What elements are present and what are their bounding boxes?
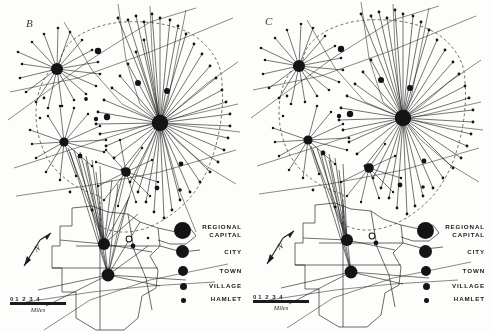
panel-b: B [0, 0, 245, 333]
legend-label-hamlet: HAMLET [437, 295, 485, 303]
scale-caption: Miles [10, 306, 66, 313]
legend-label-town: TOWN [437, 267, 485, 275]
legend-dot-city [419, 245, 432, 258]
legend-label-village: VILLAGE [194, 282, 242, 290]
panel-c-compass: N [261, 226, 301, 268]
panel-c: C [245, 0, 490, 333]
legend-label-regional-capital: REGIONAL CAPITAL [194, 223, 242, 238]
svg-text:N: N [32, 243, 42, 254]
panel-c-scalebar: 0 1 2 3 4 Miles [253, 294, 309, 311]
legend-dot-hamlet [424, 298, 429, 303]
legend-dot-village [423, 283, 430, 290]
scale-tick: 4 [31, 296, 45, 302]
figure-container: B [0, 0, 490, 333]
panel-b-compass: N [18, 228, 58, 270]
scale-caption: Miles [253, 304, 309, 311]
panel-b-scalebar: 0 1 2 3 4 Miles [10, 296, 66, 313]
legend-dot-hamlet [181, 298, 186, 303]
legend-dot-regional-capital [417, 222, 434, 239]
legend-dot-regional-capital [174, 222, 191, 239]
legend-dot-town [178, 266, 188, 276]
legend-label-village: VILLAGE [437, 282, 485, 290]
legend-label-town: TOWN [194, 267, 242, 275]
legend-dot-city [176, 245, 189, 258]
legend-label-regional-capital: REGIONAL CAPITAL [437, 223, 485, 238]
scale-bar-line [10, 302, 66, 305]
legend-label-hamlet: HAMLET [194, 295, 242, 303]
panel-c-legend: REGIONAL CAPITAL CITY TOWN VILLAGE HAMLE… [415, 222, 485, 327]
legend-dot-town [421, 266, 431, 276]
panel-b-legend: REGIONAL CAPITAL CITY TOWN VILLAGE HAMLE… [172, 222, 242, 327]
scale-tick: 4 [274, 294, 288, 300]
scale-bar-line [253, 300, 309, 303]
legend-label-city: CITY [437, 248, 485, 256]
svg-text:N: N [275, 241, 285, 252]
legend-dot-village [180, 283, 187, 290]
legend-label-city: CITY [194, 248, 242, 256]
